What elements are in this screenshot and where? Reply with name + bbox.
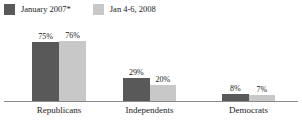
bar-value-democrats-series1: 8% (222, 85, 249, 93)
bar-group-democrats: 8% 7% (222, 22, 275, 101)
bar-rect-democrats-series1 (222, 94, 249, 101)
legend-item-january-2007: January 2007* (4, 4, 71, 15)
bar-wrap-republicans-series2: 76% (59, 22, 86, 101)
bar-rect-independents-series2 (150, 85, 177, 101)
legend-swatch-icon-series2 (93, 4, 104, 15)
bar-wrap-independents-series1: 29% (123, 22, 150, 101)
category-label-democrats: Democrats (222, 106, 275, 115)
bar-value-democrats-series2: 7% (249, 86, 276, 94)
plot-area: 75% 76% 29% 20% (0, 22, 302, 102)
legend-swatch-icon-series1 (4, 4, 15, 15)
bar-value-republicans-series1: 75% (32, 33, 59, 41)
bar-group-bars: 75% 76% (32, 22, 86, 101)
bar-chart: January 2007* Jan 4-6, 2008 75% 76% (0, 0, 302, 123)
bar-group-independents: 29% 20% (123, 22, 176, 101)
legend-label-series2: Jan 4-6, 2008 (110, 5, 156, 14)
bar-value-republicans-series2: 76% (59, 32, 86, 40)
bar-wrap-republicans-series1: 75% (32, 22, 59, 101)
legend-item-jan-2008: Jan 4-6, 2008 (93, 4, 156, 15)
bar-group-bars: 29% 20% (123, 22, 176, 101)
axis-baseline (4, 101, 298, 102)
bar-wrap-independents-series2: 20% (150, 22, 177, 101)
legend-label-series1: January 2007* (21, 5, 71, 14)
bar-group-bars: 8% 7% (222, 22, 275, 101)
bar-rect-republicans-series1 (32, 42, 59, 101)
bar-wrap-democrats-series1: 8% (222, 22, 249, 101)
bar-value-independents-series2: 20% (150, 76, 177, 84)
chart-legend: January 2007* Jan 4-6, 2008 (4, 4, 178, 15)
bar-group-republicans: 75% 76% (32, 22, 86, 101)
category-label-independents: Independents (123, 106, 176, 115)
category-label-republicans: Republicans (32, 106, 86, 115)
bar-value-independents-series1: 29% (123, 69, 150, 77)
bar-wrap-democrats-series2: 7% (249, 22, 276, 101)
bar-rect-independents-series1 (123, 78, 150, 101)
bar-rect-republicans-series2 (59, 41, 86, 101)
